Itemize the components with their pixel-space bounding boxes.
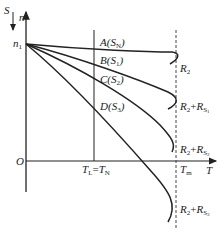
point-b-label: B(S1) (100, 55, 123, 68)
s-axis-label: S (4, 5, 10, 16)
diagram-canvas: S n n1 O T TL=TN Tm A(SN) B(S1) C(S2) D(… (0, 0, 224, 236)
t-axis-label: T (206, 165, 212, 176)
point-d-label: D(S3) (100, 101, 124, 114)
load-torque-label: TL=TN (82, 164, 110, 177)
max-torque-label: Tm (180, 164, 192, 177)
curve-b-resistance: R2+RS1 (180, 101, 210, 114)
n-axis-label: n (19, 12, 25, 23)
curve-c-resistance: R2+RS2 (180, 144, 210, 157)
origin-label: O (16, 156, 24, 167)
point-c-label: C(S2) (100, 74, 124, 87)
curve-a-resistance: R2 (180, 63, 190, 76)
curve-d (26, 44, 172, 222)
curve-d-resistance: R2+RS3 (180, 204, 210, 217)
point-a-label: A(SN) (100, 37, 125, 50)
n1-label: n1 (13, 38, 22, 51)
